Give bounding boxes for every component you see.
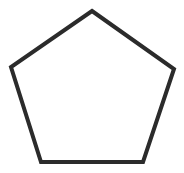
diagram-canvas bbox=[0, 0, 184, 173]
pentagon-shape bbox=[11, 11, 174, 162]
